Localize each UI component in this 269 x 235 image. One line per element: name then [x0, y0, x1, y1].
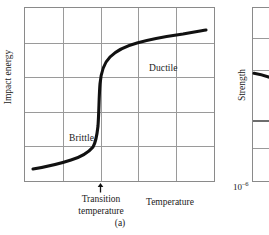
strength-curve: [253, 8, 269, 181]
up-arrow-icon: [96, 183, 105, 193]
plot-area-b: [252, 7, 269, 182]
chart-strength-partial: Strength 10–6: [232, 0, 269, 235]
transition-label-line-2: temperature: [54, 206, 148, 218]
transition-label-line-1: Transition: [54, 194, 148, 206]
x-tick-base-b: 10: [233, 182, 242, 192]
figure-ductile-brittle-transition: Brittle Ductile Impact energy Temperatur…: [0, 0, 269, 235]
figure-caption: (a): [90, 218, 150, 228]
x-axis-label: Temperature: [146, 197, 194, 207]
region-label-brittle: Brittle: [69, 133, 94, 143]
chart-impact-energy-vs-temperature: Brittle Ductile Impact energy Temperatur…: [0, 0, 232, 235]
x-tick-label-b: 10–6: [233, 182, 249, 192]
impact-energy-curve: [25, 8, 214, 181]
x-tick-exponent-b: –6: [242, 180, 249, 187]
y-axis-label-b: Strength: [237, 50, 247, 120]
plot-area: Brittle Ductile: [24, 7, 215, 182]
transition-temperature-label: Transition temperature: [54, 194, 148, 217]
region-label-ductile: Ductile: [149, 63, 178, 73]
y-axis-label: Impact energy: [3, 22, 13, 132]
